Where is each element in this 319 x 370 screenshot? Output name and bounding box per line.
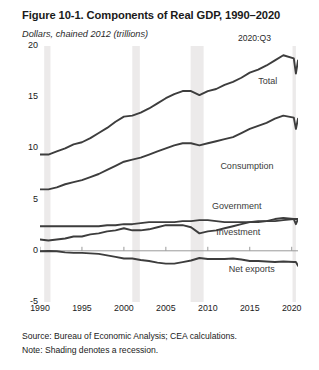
x-tick-marks xyxy=(40,247,292,251)
figure-container: Figure 10-1. Components of Real GDP, 199… xyxy=(0,0,319,370)
series-label-investment: Investment xyxy=(216,227,260,237)
y-axis-label: 20 xyxy=(14,40,38,50)
recession-band xyxy=(191,46,204,302)
recession-band xyxy=(44,46,50,302)
figure-subtitle: Dollars, chained 2012 (trillions) xyxy=(22,29,148,39)
y-axis-label: 5 xyxy=(14,194,38,204)
series-line-consumption xyxy=(40,116,298,190)
x-axis-label: 2020 xyxy=(272,303,312,313)
x-axis-label: 1995 xyxy=(62,303,102,313)
recession-band xyxy=(132,46,140,302)
x-axis-label: 2010 xyxy=(188,303,228,313)
series-label-consumption: Consumption xyxy=(220,161,273,171)
series-label-total: Total xyxy=(258,76,277,86)
y-axis-label: 10 xyxy=(14,142,38,152)
y-axis-label: 15 xyxy=(14,91,38,101)
x-axis-label: 2005 xyxy=(146,303,186,313)
x-axis-label: 1990 xyxy=(20,303,60,313)
x-axis-label: 2000 xyxy=(104,303,144,313)
figure-title: Figure 10-1. Components of Real GDP, 199… xyxy=(22,9,307,21)
end-period-annotation: 2020:Q3 xyxy=(238,33,271,43)
x-axis-label: 2015 xyxy=(230,303,270,313)
series-label-net-exports: Net exports xyxy=(229,264,275,274)
y-axis: 20151050-5 xyxy=(12,46,38,302)
y-axis-label: 0 xyxy=(14,245,38,255)
recession-band xyxy=(293,46,296,302)
series-line-total xyxy=(40,55,298,154)
source-note: Source: Bureau of Economic Analysis; CEA… xyxy=(22,331,237,341)
series-label-government: Government xyxy=(212,201,262,211)
x-axis: 1990199520002005201020152020 xyxy=(40,303,302,317)
shading-note: Note: Shading denotes a recession. xyxy=(22,345,158,355)
